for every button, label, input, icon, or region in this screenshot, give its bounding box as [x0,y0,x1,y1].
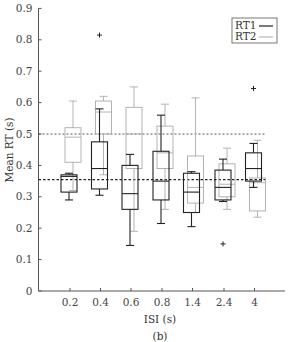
rt1-box [92,33,108,196]
x-tick-label: 0.6 [123,296,140,308]
iqr-box [126,107,142,168]
x-tick-label: 0.4 [92,296,109,308]
rt1-box [61,173,77,200]
rt2-box [65,101,81,190]
iqr-box [122,165,138,209]
iqr-box [96,101,112,134]
iqr-box [61,175,77,192]
x-axis: 0.20.40.60.81.42.44 [39,288,286,308]
iqr-box [65,128,81,163]
y-tick-label: 0.7 [16,65,33,77]
y-tick-label: 0.2 [16,222,33,234]
iqr-box [215,170,231,200]
legend: RT1 RT2 [232,18,277,43]
rt2-box [188,98,204,213]
y-tick-label: 0.8 [16,33,33,45]
x-axis-title: ISI (s) [144,313,176,325]
rt2-box [250,140,266,217]
y-axis-title: Mean RT (s) [3,118,15,183]
legend-label-rt2: RT2 [235,30,256,42]
rt2-box [157,104,173,209]
x-tick-label: 1.4 [184,296,201,308]
iqr-box [157,126,173,168]
rt1-box [246,86,262,187]
y-axis: 00.10.20.30.40.50.60.70.80.9 [16,2,42,297]
boxes [61,33,266,247]
rt1-box [215,159,231,246]
x-tick-label: 0.8 [154,296,171,308]
y-tick-label: 0.9 [16,2,33,14]
rt1-box [122,154,138,245]
iqr-box [219,164,235,197]
iqr-box [92,142,108,189]
iqr-box [153,151,169,200]
x-tick-label: 2.4 [216,296,233,308]
x-tick-label: 0.2 [62,296,79,308]
y-tick-label: 0.5 [16,128,33,140]
rt2-box [96,96,112,175]
y-tick-label: 0.3 [16,190,33,202]
y-tick-label: 0.4 [16,159,33,171]
y-tick-label: 0.6 [16,96,33,108]
panel-label: (b) [153,330,168,342]
y-tick-label: 0.1 [16,253,33,265]
x-tick-label: 4 [251,296,258,308]
iqr-box [246,153,262,181]
y-tick-label: 0 [26,285,33,297]
box-plot-chart: 00.10.20.30.40.50.60.70.80.9 0.20.40.60.… [0,0,289,342]
rt1-box [153,115,169,223]
